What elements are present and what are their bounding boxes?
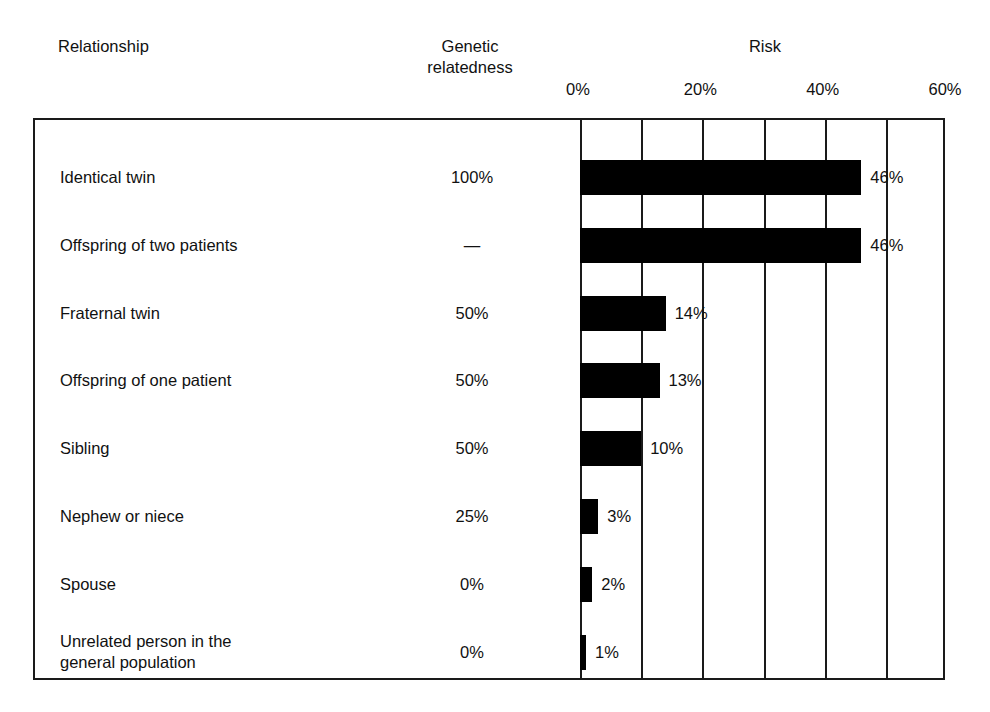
table-row: Offspring of two patients—46% [35,228,947,268]
x-axis-tick-labels: 0%20%40%60% [0,80,990,104]
table-row: Sibling50%10% [35,431,947,471]
bar [580,499,598,534]
row-label-line1: Offspring of two patients [60,235,390,256]
bar [580,160,861,195]
table-row: Identical twin100%46% [35,160,947,200]
bar [580,431,641,466]
table-row: Unrelated person in thegeneral populatio… [35,635,947,675]
bar-value-label: 3% [607,506,631,527]
bar-value-label: 2% [601,574,625,595]
x-axis-tick-60: 60% [928,80,961,99]
column-header-genetic-relatedness: Genetic relatedness [390,36,550,78]
bar [580,228,861,263]
row-label-relationship: Spouse [60,574,390,595]
x-axis-tick-20: 20% [684,80,717,99]
bar [580,567,592,602]
row-value-genetic-relatedness: 100% [392,167,552,188]
table-row: Nephew or niece25%3% [35,499,947,539]
column-header-genetic-line2: relatedness [390,57,550,78]
row-value-genetic-relatedness: 0% [392,574,552,595]
risk-chart-figure: Relationship Genetic relatedness Risk 0%… [0,0,990,712]
x-axis-tick-40: 40% [806,80,839,99]
row-label-line1: Unrelated person in the [60,631,390,652]
bar-value-label: 10% [650,438,683,459]
row-value-genetic-relatedness: 50% [392,303,552,324]
bar-value-label: 1% [595,642,619,663]
column-header-relationship: Relationship [58,36,149,57]
row-label-relationship: Fraternal twin [60,303,390,324]
row-value-genetic-relatedness: 0% [392,642,552,663]
row-value-genetic-relatedness: 25% [392,506,552,527]
bar [580,635,586,670]
bar [580,363,660,398]
row-value-genetic-relatedness: 50% [392,370,552,391]
row-value-genetic-relatedness: 50% [392,438,552,459]
x-axis-tick-0: 0% [566,80,590,99]
bar-value-label: 13% [669,370,702,391]
table-row: Spouse0%2% [35,567,947,607]
row-label-line1: Offspring of one patient [60,370,390,391]
plot-frame: Identical twin100%46%Offspring of two pa… [33,118,945,680]
table-row: Offspring of one patient50%13% [35,363,947,403]
row-label-relationship: Identical twin [60,167,390,188]
bar [580,296,666,331]
column-header-genetic-line1: Genetic [390,36,550,57]
row-label-relationship: Sibling [60,438,390,459]
row-label-relationship: Nephew or niece [60,506,390,527]
row-label-relationship: Unrelated person in thegeneral populatio… [60,631,390,673]
row-label-relationship: Offspring of one patient [60,370,390,391]
bar-value-label: 14% [675,303,708,324]
row-label-line2: general population [60,652,390,673]
row-label-line1: Fraternal twin [60,303,390,324]
row-label-line1: Sibling [60,438,390,459]
column-header-risk: Risk [700,36,830,57]
row-label-relationship: Offspring of two patients [60,235,390,256]
table-row: Fraternal twin50%14% [35,296,947,336]
row-label-line1: Nephew or niece [60,506,390,527]
row-value-genetic-relatedness: — [392,235,552,256]
bar-value-label: 46% [870,167,903,188]
bar-value-label: 46% [870,235,903,256]
row-label-line1: Spouse [60,574,390,595]
row-label-line1: Identical twin [60,167,390,188]
